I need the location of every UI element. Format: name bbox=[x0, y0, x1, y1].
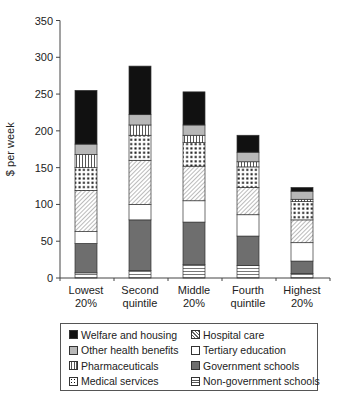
legend-item-other-health-benefits: Other health benefits bbox=[69, 343, 191, 359]
x-category-label: Fourth bbox=[232, 284, 264, 296]
y-tick-label: 300 bbox=[35, 51, 53, 63]
bar-segment-pharmaceuticals bbox=[129, 125, 151, 135]
bar-segment-tertiary-education bbox=[237, 215, 259, 236]
legend-label: Hospital care bbox=[203, 329, 264, 341]
legend-swatch-icon bbox=[191, 377, 200, 386]
x-category-label: 20% bbox=[75, 297, 97, 309]
bar-segment-welfare-and-housing bbox=[291, 188, 313, 192]
bar-segment-tertiary-education bbox=[183, 201, 205, 222]
bar-segment-pharmaceuticals bbox=[237, 162, 259, 167]
x-category-label: Middle bbox=[178, 284, 210, 296]
bar-segment-pharmaceuticals bbox=[183, 135, 205, 142]
bar-segment-hospital-care bbox=[291, 220, 313, 243]
legend-swatch-icon bbox=[69, 330, 78, 339]
bar-second-quintile bbox=[129, 66, 151, 278]
bar-segment-government-schools bbox=[129, 220, 151, 271]
y-tick-label: 200 bbox=[35, 125, 53, 137]
bar-segment-government-schools bbox=[183, 222, 205, 265]
x-category-label: Lowest bbox=[69, 284, 104, 296]
y-tick-label: 150 bbox=[35, 162, 53, 174]
bar-segment-medical-services bbox=[75, 168, 97, 191]
bar-segment-welfare-and-housing bbox=[237, 135, 259, 152]
bar-segment-government-schools bbox=[291, 261, 313, 274]
legend-item-pharmaceuticals: Pharmaceuticals bbox=[69, 358, 191, 374]
bar-middle-20- bbox=[183, 92, 205, 278]
legend-label: Other health benefits bbox=[81, 344, 178, 356]
y-axis-label: $ per week bbox=[4, 122, 16, 176]
bar-segment-non-government-schools bbox=[237, 265, 259, 278]
x-category-label: 20% bbox=[291, 297, 313, 309]
legend-item-non-government-schools: Non-government schools bbox=[191, 374, 321, 390]
legend-swatch-icon bbox=[191, 346, 200, 355]
y-tick-label: 100 bbox=[35, 198, 53, 210]
legend-swatch-icon bbox=[191, 361, 200, 370]
legend-label: Pharmaceuticals bbox=[81, 360, 159, 372]
y-tick-label: 350 bbox=[35, 15, 53, 27]
legend-swatch-icon bbox=[69, 361, 78, 370]
x-category-label: Highest bbox=[283, 284, 320, 296]
legend-label: Non-government schools bbox=[203, 375, 320, 387]
bar-segment-other-health-benefits bbox=[237, 152, 259, 162]
bar-segment-medical-services bbox=[183, 143, 205, 167]
bar-segment-welfare-and-housing bbox=[75, 90, 97, 144]
stacked-bar-chart: 050100150200250300350$ per weekLowest20%… bbox=[0, 0, 339, 320]
y-tick-label: 0 bbox=[47, 272, 53, 284]
bar-segment-hospital-care bbox=[129, 160, 151, 204]
axes: 050100150200250300350$ per weekLowest20%… bbox=[4, 15, 330, 310]
bar-segment-other-health-benefits bbox=[129, 115, 151, 125]
bar-fourth-quintile bbox=[237, 135, 259, 278]
x-category-label: quintile bbox=[123, 297, 158, 309]
bar-segment-welfare-and-housing bbox=[129, 66, 151, 115]
bar-segment-government-schools bbox=[75, 243, 97, 272]
legend-swatch-icon bbox=[69, 377, 78, 386]
bar-segment-tertiary-education bbox=[75, 232, 97, 244]
y-tick-label: 250 bbox=[35, 88, 53, 100]
bar-segment-welfare-and-housing bbox=[183, 92, 205, 125]
bar-segment-medical-services bbox=[291, 201, 313, 219]
bar-segment-non-government-schools bbox=[291, 274, 313, 278]
legend-swatch-icon bbox=[191, 330, 200, 339]
legend-swatch-icon bbox=[69, 346, 78, 355]
bar-segment-other-health-benefits bbox=[75, 144, 97, 154]
legend-item-government-schools: Government schools bbox=[191, 358, 321, 374]
bar-lowest-20- bbox=[75, 90, 97, 278]
chart-legend: Welfare and housingHospital careOther he… bbox=[60, 323, 318, 391]
legend-item-medical-services: Medical services bbox=[69, 374, 191, 390]
bar-segment-non-government-schools bbox=[129, 271, 151, 278]
bar-segment-hospital-care bbox=[183, 166, 205, 201]
bar-segment-pharmaceuticals bbox=[75, 154, 97, 167]
bar-segment-medical-services bbox=[129, 135, 151, 160]
bar-segment-hospital-care bbox=[237, 188, 259, 215]
bar-highest-20- bbox=[291, 188, 313, 278]
bars bbox=[75, 66, 313, 278]
x-category-label: Second bbox=[121, 284, 158, 296]
bar-segment-hospital-care bbox=[75, 190, 97, 231]
legend-item-hospital-care: Hospital care bbox=[191, 327, 321, 343]
legend-item-welfare-and-housing: Welfare and housing bbox=[69, 327, 191, 343]
x-category-label: 20% bbox=[183, 297, 205, 309]
y-tick-label: 50 bbox=[41, 235, 53, 247]
bar-segment-government-schools bbox=[237, 236, 259, 265]
bar-segment-medical-services bbox=[237, 167, 259, 188]
bar-segment-non-government-schools bbox=[75, 273, 97, 278]
bar-segment-other-health-benefits bbox=[291, 191, 313, 199]
legend-label: Medical services bbox=[81, 375, 159, 387]
legend-label: Welfare and housing bbox=[81, 329, 177, 341]
bar-segment-other-health-benefits bbox=[183, 125, 205, 135]
bar-segment-tertiary-education bbox=[129, 204, 151, 219]
x-category-label: quintile bbox=[231, 297, 266, 309]
bar-segment-tertiary-education bbox=[291, 243, 313, 261]
legend-item-tertiary-education: Tertiary education bbox=[191, 343, 321, 359]
legend-label: Government schools bbox=[203, 360, 299, 372]
bar-segment-non-government-schools bbox=[183, 265, 205, 278]
legend-label: Tertiary education bbox=[203, 344, 286, 356]
